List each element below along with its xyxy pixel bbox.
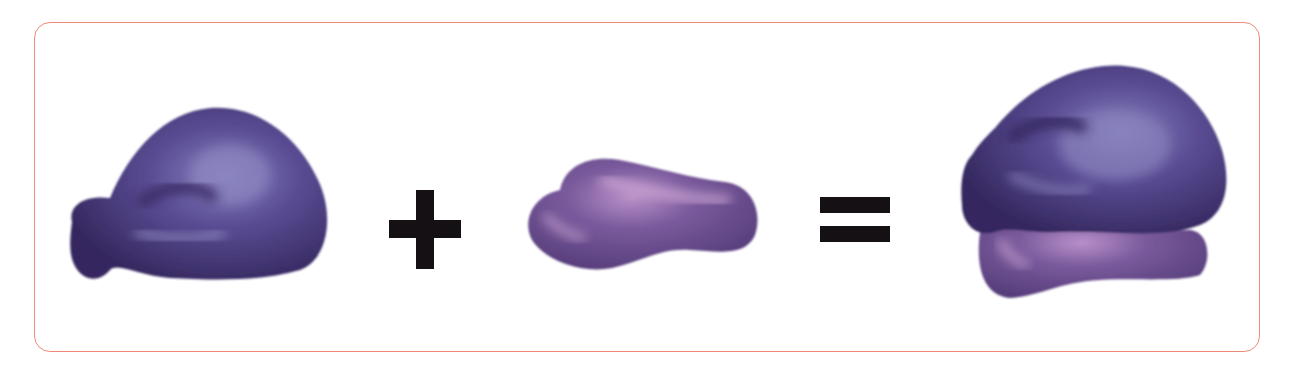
large-subunit-icon — [70, 108, 327, 280]
ribosome-assembly-diagram — [0, 0, 1305, 370]
plus-icon — [389, 190, 461, 269]
small-subunit-icon — [528, 159, 757, 270]
equals-icon — [820, 197, 890, 242]
assembled-ribosome-icon — [961, 66, 1226, 298]
